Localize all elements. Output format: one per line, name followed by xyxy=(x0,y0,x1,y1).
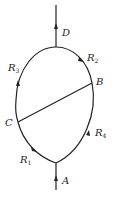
resistor-r1-sub: 1 xyxy=(28,159,32,166)
resistor-r3-sub: 3 xyxy=(16,67,20,74)
loop-left-upper-r3 xyxy=(16,47,56,122)
node-label-a: A xyxy=(61,175,69,186)
resistor-label-r3: R3 xyxy=(7,62,20,74)
resistor-r2-sub: 2 xyxy=(95,57,99,64)
resistor-r4-sub: 4 xyxy=(103,132,107,139)
arrow-up-icon xyxy=(54,23,58,29)
resistor-label-r2: R2 xyxy=(86,52,99,64)
resistor-label-r4: R4 xyxy=(94,127,107,139)
arrow-r4-icon xyxy=(86,130,90,136)
bridge-wire-bc xyxy=(18,83,92,122)
arrow-up-icon xyxy=(54,175,58,181)
circuit-diagram: D B C A R2 R3 R4 R1 xyxy=(0,0,114,199)
arrow-r1-icon xyxy=(31,147,37,152)
node-label-c: C xyxy=(5,117,13,128)
arrow-r2-icon xyxy=(78,57,84,62)
node-label-d: D xyxy=(61,27,70,38)
loop-right-lower-r4 xyxy=(56,83,93,163)
node-label-b: B xyxy=(95,76,103,87)
resistor-label-r1: R1 xyxy=(19,154,31,166)
